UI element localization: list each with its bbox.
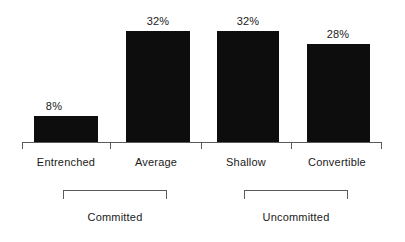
plot-area: 8% 32% 32% 28% (0, 0, 405, 143)
axis-tick-start (22, 142, 23, 149)
group-label-uncommitted: Uncommitted (244, 211, 348, 223)
category-label-entrenched: Entrenched (22, 156, 110, 168)
bar-value-label-shallow: 32% (216, 15, 280, 27)
axis-tick-2 (201, 142, 202, 149)
bar-convertible (307, 44, 370, 143)
category-label-convertible: Convertible (292, 156, 382, 168)
axis-tick-1 (110, 142, 111, 149)
group-label-committed: Committed (63, 211, 167, 223)
axis-tick-end (381, 142, 382, 149)
bar-chart: 8% 32% 32% 28% Entrenched Average Shallo… (0, 0, 405, 242)
axis-tick-3 (291, 142, 292, 149)
category-label-shallow: Shallow (202, 156, 290, 168)
bar-value-label-entrenched: 8% (22, 100, 86, 112)
bar-average (126, 31, 190, 143)
bar-value-label-average: 32% (126, 15, 190, 27)
group-bracket-uncommitted (244, 190, 348, 199)
group-bracket-committed (63, 190, 167, 199)
bar-entrenched (34, 116, 98, 143)
bar-shallow (217, 31, 279, 143)
bar-value-label-convertible: 28% (306, 28, 370, 40)
category-label-average: Average (112, 156, 200, 168)
